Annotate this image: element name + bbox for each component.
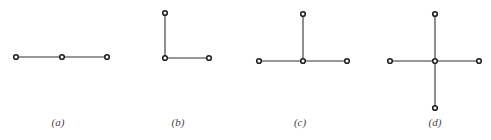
tree-node — [207, 56, 212, 61]
tree-node — [433, 106, 438, 111]
figure-label: (a) — [52, 116, 65, 128]
tree-figure — [388, 12, 482, 111]
tree-node — [163, 11, 168, 16]
tree-node — [257, 59, 262, 64]
tree-node — [433, 59, 438, 64]
figure-label: (c) — [294, 116, 306, 128]
tree-node — [388, 59, 393, 64]
tree-figure — [14, 55, 110, 60]
figure-label: (d) — [429, 116, 442, 128]
tree-node — [301, 59, 306, 64]
tree-node — [477, 59, 482, 64]
tree-node — [433, 12, 438, 17]
tree-diagrams-canvas — [0, 0, 491, 140]
tree-node — [301, 12, 306, 17]
tree-node — [60, 55, 65, 60]
tree-node — [105, 55, 110, 60]
tree-node — [163, 56, 168, 61]
tree-figure — [257, 12, 350, 64]
tree-figure — [163, 11, 212, 61]
figure-label: (b) — [172, 116, 185, 128]
tree-node — [14, 55, 19, 60]
tree-node — [345, 59, 350, 64]
